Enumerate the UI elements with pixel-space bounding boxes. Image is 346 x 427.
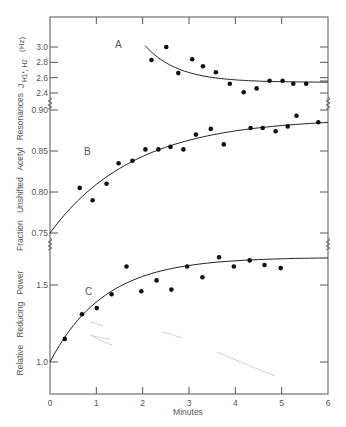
y-tick-label: 2.6 [36, 73, 48, 83]
data-point-b [168, 145, 173, 150]
y-axis-label-c: Relative Reducing Power [15, 270, 25, 375]
data-point-b [260, 126, 265, 131]
y-axis-label-b: Fraction Unshifted Acetyl Resonances [15, 93, 25, 251]
data-point-c [109, 292, 114, 297]
y-tick-label: 2.8 [36, 57, 48, 67]
data-point-b [285, 124, 290, 129]
x-axis-label: Minutes [173, 407, 203, 417]
y-axis-label-a: J H1*, H2 (Hz) [16, 37, 28, 88]
data-point-c [185, 264, 190, 269]
data-point-c [63, 337, 68, 342]
data-point-b [316, 120, 321, 125]
data-point-b [130, 159, 135, 164]
pencil-mark [217, 352, 275, 376]
data-point-a [201, 64, 206, 69]
x-tick-label: 6 [326, 398, 331, 408]
y-tick-label: 0.90 [31, 105, 48, 115]
y-tick-label: 2.4 [36, 88, 48, 98]
data-point-a [214, 70, 219, 75]
data-point-a [149, 58, 154, 63]
y-label-a-unit: (Hz) [17, 37, 26, 52]
data-point-c [80, 312, 85, 317]
data-point-c [247, 258, 252, 263]
y-tick-label: 0.80 [31, 187, 48, 197]
data-point-b [294, 113, 299, 118]
data-point-a [254, 86, 259, 91]
panel-label-b: B [84, 146, 91, 157]
data-point-b [222, 142, 227, 147]
data-point-b [181, 147, 186, 152]
data-point-c [124, 264, 129, 269]
data-point-c [262, 263, 267, 268]
data-point-a [164, 45, 169, 50]
data-point-a [228, 82, 233, 87]
pencil-mark [92, 336, 112, 345]
x-tick-label: 2 [140, 398, 145, 408]
fit-curve-b [50, 122, 328, 233]
fit-curve-a [145, 46, 328, 83]
panel-label-a: A [115, 39, 122, 50]
data-point-a [190, 57, 195, 62]
data-point-a [176, 71, 181, 76]
data-point-c [169, 287, 174, 292]
axis-break-marks [48, 97, 330, 250]
data-point-a [241, 90, 246, 95]
y-tick-label: 0.85 [31, 146, 48, 156]
data-point-b [116, 161, 121, 166]
y-tick-label: 1.5 [36, 280, 48, 290]
y-label-a-sub: H1*, H2 [21, 59, 28, 82]
data-point-b [194, 132, 199, 137]
x-tick-label: 5 [279, 398, 284, 408]
plot-frame [50, 17, 328, 394]
data-point-c [95, 306, 100, 311]
y-tick-label: 0.75 [31, 228, 48, 238]
data-point-c [217, 255, 222, 260]
pencil-mark [90, 335, 110, 339]
data-point-c [232, 264, 237, 269]
data-point-b [248, 126, 253, 131]
data-point-b [90, 198, 95, 203]
data-point-c [154, 278, 159, 283]
data-point-b [104, 182, 109, 187]
data-point-c [200, 275, 205, 280]
pencil-marks [90, 322, 275, 376]
y-tick-label: 1.0 [36, 357, 48, 367]
fit-curves [50, 46, 328, 363]
data-point-b [156, 147, 161, 152]
fit-curve-c [50, 258, 328, 362]
plot-border [50, 17, 328, 394]
axis-ticks: 01234563.02.82.62.40.900.850.800.751.51.… [31, 17, 330, 408]
data-point-c [278, 266, 283, 271]
data-point-b [143, 147, 148, 152]
panel-label-c: C [85, 286, 92, 297]
data-point-c [139, 289, 144, 294]
data-point-a [280, 78, 285, 83]
data-point-a [267, 78, 272, 83]
y-tick-label: 3.0 [36, 42, 48, 52]
x-tick-label: 4 [233, 398, 238, 408]
x-tick-label: 0 [48, 398, 53, 408]
data-points [63, 45, 321, 342]
data-point-a [291, 82, 296, 87]
y-label-a-main: J [16, 84, 26, 89]
pencil-mark [91, 322, 103, 326]
data-point-a [304, 82, 309, 87]
data-point-b [273, 129, 278, 134]
pencil-mark [162, 332, 181, 338]
x-tick-label: 1 [94, 398, 99, 408]
data-point-b [209, 127, 214, 132]
chart-figure: 01234563.02.82.62.40.900.850.800.751.51.… [0, 0, 346, 427]
data-point-b [77, 186, 82, 191]
